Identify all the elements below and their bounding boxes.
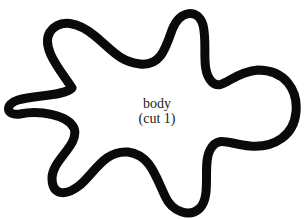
body-label-subtitle: (cut 1) bbox=[112, 111, 202, 126]
body-label-title: body bbox=[112, 96, 202, 111]
diagram-canvas: body (cut 1) bbox=[0, 0, 305, 219]
body-label: body (cut 1) bbox=[112, 96, 202, 126]
